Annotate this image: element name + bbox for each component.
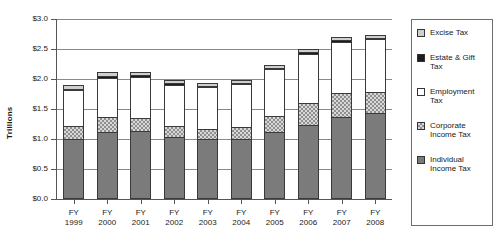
x-axis-tick-mark: [97, 200, 118, 208]
x-axis-tick-mark: [63, 200, 84, 208]
chart-container: Trillions $3.0$2.5$2.0$1.5$1.0$0.5$0.0 F…: [0, 0, 497, 244]
x-axis-label-line: 2003: [193, 218, 223, 228]
bar-stack[interactable]: [130, 19, 151, 199]
x-axis-tick-label: FY2002: [159, 208, 189, 227]
legend-swatch-corporate-icon: [417, 122, 425, 130]
bar-stack[interactable]: [97, 19, 118, 199]
y-axis-tick-label: $2.0: [0, 75, 48, 83]
legend-label: Individual Income Tax: [430, 155, 488, 174]
y-axis-tick-label: $2.5: [0, 45, 48, 53]
bar-segment-corporate[interactable]: [97, 117, 118, 132]
x-axis-label-line: FY: [59, 208, 89, 218]
bar-segment-individual[interactable]: [264, 132, 285, 199]
bar-segment-corporate[interactable]: [164, 126, 185, 136]
x-axis-label-line: FY: [193, 208, 223, 218]
bar-segment-corporate[interactable]: [197, 129, 218, 139]
bar-segment-employment[interactable]: [97, 78, 118, 117]
x-axis-label-line: FY: [159, 208, 189, 218]
legend: Excise TaxEstate & Gift TaxEmployment Ta…: [411, 19, 493, 226]
bar-stack[interactable]: [264, 19, 285, 199]
bar-stack[interactable]: [197, 19, 218, 199]
legend-item-employment[interactable]: Employment Tax: [417, 87, 488, 106]
legend-label: Estate & Gift Tax: [430, 53, 488, 72]
legend-label: Corporate Income Tax: [430, 121, 488, 140]
x-axis-tick-mark: [331, 200, 352, 208]
bar-segment-individual[interactable]: [331, 117, 352, 199]
bar-stack[interactable]: [63, 19, 84, 199]
x-axis-label-line: FY: [360, 208, 390, 218]
y-axis-tick-label: $3.0: [0, 15, 48, 23]
bar-segment-individual[interactable]: [197, 139, 218, 199]
bar-segment-individual[interactable]: [63, 139, 84, 199]
bar-segment-employment[interactable]: [164, 85, 185, 126]
bar-segment-individual[interactable]: [365, 113, 386, 199]
bar-segment-employment[interactable]: [264, 69, 285, 115]
x-axis-tick-mark: [264, 200, 285, 208]
bar-segment-employment[interactable]: [231, 84, 252, 127]
x-axis-label-line: FY: [327, 208, 357, 218]
legend-label: Excise Tax: [430, 28, 468, 38]
x-axis-label-line: 2001: [126, 218, 156, 228]
x-axis-label-line: FY: [293, 208, 323, 218]
bar-segment-corporate[interactable]: [298, 103, 319, 125]
y-axis-title: Trillions: [2, 78, 16, 168]
x-axis-label-line: FY: [92, 208, 122, 218]
x-axis-tick-label: FY2005: [260, 208, 290, 227]
y-axis-tick-label: $0.0: [0, 195, 48, 203]
x-axis-label-line: 2004: [226, 218, 256, 228]
bar-segment-employment[interactable]: [365, 39, 386, 92]
bar-segment-corporate[interactable]: [130, 118, 151, 131]
legend-item-estategift[interactable]: Estate & Gift Tax: [417, 53, 488, 72]
bar-stack[interactable]: [331, 19, 352, 199]
legend-item-excise[interactable]: Excise Tax: [417, 28, 488, 38]
bar-segment-corporate[interactable]: [331, 93, 352, 117]
bar-segment-individual[interactable]: [298, 125, 319, 199]
x-axis-label-line: FY: [226, 208, 256, 218]
legend-swatch-employment-icon: [417, 88, 425, 96]
x-axis-tick-label: FY2008: [360, 208, 390, 227]
x-axis-tick-mark: [130, 200, 151, 208]
legend-swatch-individual-icon: [417, 156, 425, 164]
bar-segment-employment[interactable]: [298, 54, 319, 103]
x-axis-label-line: 2000: [92, 218, 122, 228]
bar-segment-employment[interactable]: [197, 87, 218, 129]
bar-stack[interactable]: [231, 19, 252, 199]
legend-swatch-estategift-icon: [417, 54, 425, 62]
bar-segment-individual[interactable]: [164, 137, 185, 199]
bar-segment-individual[interactable]: [231, 139, 252, 199]
legend-item-corporate[interactable]: Corporate Income Tax: [417, 121, 488, 140]
y-axis-tick-label: $1.0: [0, 135, 48, 143]
bar-segment-corporate[interactable]: [63, 126, 84, 139]
bar-segment-individual[interactable]: [97, 132, 118, 199]
x-axis-tick-mark: [365, 200, 386, 208]
x-axis-tick-label: FY2003: [193, 208, 223, 227]
bar-stack[interactable]: [164, 19, 185, 199]
x-axis-label-line: 1999: [59, 218, 89, 228]
x-axis-tick-label: FY2004: [226, 208, 256, 227]
x-axis-tick-mark: [197, 200, 218, 208]
x-axis-label-line: 2006: [293, 218, 323, 228]
x-axis-tick-mark: [231, 200, 252, 208]
x-axis-tick-mark: [164, 200, 185, 208]
x-axis-tick-label: FY1999: [59, 208, 89, 227]
bar-segment-corporate[interactable]: [231, 127, 252, 139]
bar-segment-individual[interactable]: [130, 131, 151, 199]
x-axis-tick-label: FY2000: [92, 208, 122, 227]
legend-label: Employment Tax: [430, 87, 488, 106]
bar-series-group: [57, 19, 392, 199]
bar-segment-corporate[interactable]: [365, 92, 386, 113]
y-axis-tick-label: $0.5: [0, 165, 48, 173]
x-axis-label-line: 2007: [327, 218, 357, 228]
x-axis-label-line: FY: [126, 208, 156, 218]
bar-segment-employment[interactable]: [63, 90, 84, 125]
legend-item-individual[interactable]: Individual Income Tax: [417, 155, 488, 174]
x-axis-label-line: 2002: [159, 218, 189, 228]
legend-swatch-excise-icon: [417, 29, 425, 37]
bar-segment-corporate[interactable]: [264, 116, 285, 133]
bar-stack[interactable]: [365, 19, 386, 199]
bar-segment-employment[interactable]: [331, 42, 352, 93]
bar-segment-employment[interactable]: [130, 77, 151, 118]
bar-stack[interactable]: [298, 19, 319, 199]
x-axis-tick-label: FY2006: [293, 208, 323, 227]
x-axis-label-line: 2008: [360, 218, 390, 228]
